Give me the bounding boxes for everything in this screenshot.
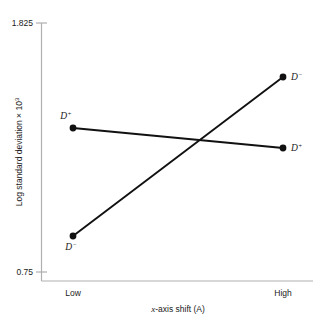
chart-figure: 1.825 0.75 Log standard deviation × 103 … bbox=[0, 0, 322, 320]
y-axis-title-main: Log standard deviation × 10 bbox=[14, 101, 24, 206]
point-label-d-minus-low-sup: − bbox=[72, 241, 76, 248]
series-line-d-plus bbox=[73, 128, 283, 148]
series-line-d-minus bbox=[73, 77, 283, 236]
point-label-d-minus-high-base: D bbox=[290, 72, 298, 82]
data-point-d-minus-high bbox=[280, 74, 287, 81]
data-point-d-plus-high bbox=[280, 145, 287, 152]
x-category-label-low: Low bbox=[65, 288, 81, 298]
point-label-d-plus-low-base: D bbox=[59, 111, 67, 121]
point-label-d-minus-low: D− bbox=[64, 241, 76, 253]
point-label-d-plus-high-base: D bbox=[290, 143, 298, 153]
y-axis-title: Log standard deviation × 103 bbox=[14, 97, 24, 206]
point-label-d-plus-low-sup: + bbox=[67, 110, 71, 117]
svg-text:Log standard deviation × 103: Log standard deviation × 103 bbox=[14, 97, 24, 206]
point-label-d-minus-low-base: D bbox=[64, 242, 72, 252]
point-label-d-minus-high: D− bbox=[290, 71, 302, 83]
point-label-d-minus-high-sup: − bbox=[298, 71, 302, 78]
y-axis-title-exponent: 3 bbox=[14, 97, 20, 101]
chart-canvas: 1.825 0.75 Log standard deviation × 103 … bbox=[0, 0, 322, 320]
x-axis-title: x-axis shift (A) bbox=[150, 304, 205, 314]
y-tick-label-upper: 1.825 bbox=[12, 18, 34, 28]
data-point-d-plus-low bbox=[70, 125, 77, 132]
x-category-label-high: High bbox=[274, 288, 292, 298]
point-label-d-plus-high-sup: + bbox=[298, 142, 302, 149]
y-tick-label-lower: 0.75 bbox=[16, 267, 33, 277]
point-label-d-plus-high: D+ bbox=[290, 142, 302, 154]
point-label-d-plus-low: D+ bbox=[59, 110, 71, 122]
data-point-d-minus-low bbox=[70, 233, 77, 240]
x-axis-title-rest: -axis shift (A) bbox=[155, 304, 205, 314]
